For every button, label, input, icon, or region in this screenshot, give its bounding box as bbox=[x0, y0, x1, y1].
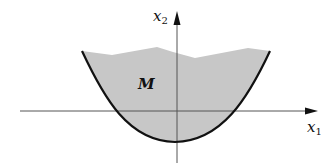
x1-axis-label-subscript: 1 bbox=[315, 126, 321, 137]
x2-axis-label: x2 bbox=[153, 9, 168, 26]
x1-axis-arrow-icon bbox=[305, 108, 318, 115]
x2-axis-label-subscript: 2 bbox=[161, 15, 167, 26]
region-m bbox=[82, 47, 270, 142]
x1-axis-label: x1 bbox=[307, 120, 322, 137]
x2-axis-arrow-icon bbox=[174, 11, 181, 25]
region-label-m: M bbox=[138, 77, 155, 92]
